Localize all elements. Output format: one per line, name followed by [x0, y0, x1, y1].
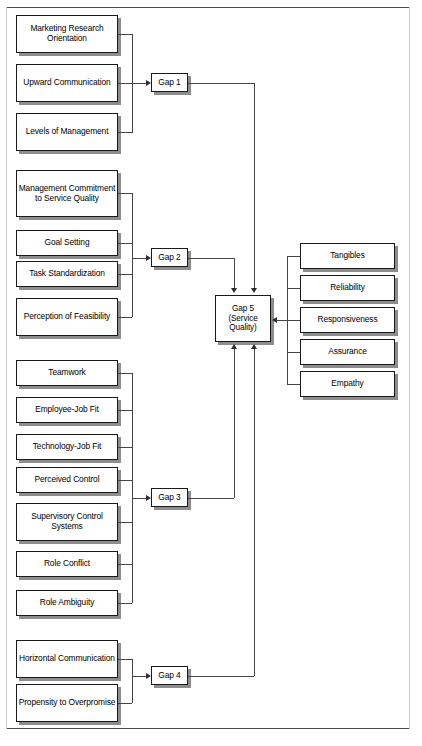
antecedent-box-supervisory-control-systems: Supervisory Control Systems	[16, 503, 118, 541]
connector-dimension-stub-1	[287, 256, 300, 257]
gap5-label-line1: Gap 5	[232, 304, 254, 314]
dimension-box-assurance: Assurance	[300, 339, 395, 365]
connector-gap1-out-v	[254, 83, 255, 288]
connector-gap2-stub-1	[118, 193, 132, 194]
dimension-label: Responsiveness	[317, 315, 377, 325]
connector-dimension-stub-3	[287, 320, 300, 321]
antecedent-box-marketing-research-orientation: Marketing Research Orientation	[16, 15, 118, 53]
antecedent-label: Teamwork	[48, 368, 85, 378]
antecedent-box-role-conflict: Role Conflict	[16, 551, 118, 577]
connector-gap3-stub-7	[118, 603, 132, 604]
connector-gap2-bus	[132, 193, 133, 317]
antecedent-box-perceived-control: Perceived Control	[16, 467, 118, 493]
gap-label: Gap 4	[158, 671, 180, 681]
antecedent-box-propensity-to-overpromise: Propensity to Overpromise	[16, 684, 118, 722]
dimension-box-reliability: Reliability	[300, 275, 395, 301]
connector-dimension-stub-4	[287, 352, 300, 353]
antecedent-label: Perception of Feasibility	[24, 312, 110, 322]
connector-gap3-stub-5	[118, 522, 132, 523]
connector-dimension-stub-2	[287, 288, 300, 289]
page-rule-bottom	[6, 728, 410, 729]
gap5-label-line3: Quality)	[229, 323, 256, 333]
connector-gap4-bus	[132, 659, 133, 703]
dimension-box-empathy: Empathy	[300, 371, 395, 397]
connector-gap2-stub-3	[118, 274, 132, 275]
page-rule-right	[409, 7, 410, 729]
connector-gap2-stub-4	[118, 317, 132, 318]
antecedent-box-levels-of-management: Levels of Management	[16, 113, 118, 151]
connector-dimension-bus	[287, 256, 288, 384]
page-rule-top	[6, 7, 410, 8]
gap-box-2: Gap 2	[151, 248, 188, 267]
antecedent-label: Supervisory Control Systems	[17, 512, 117, 532]
connector-gap2-stub-2	[118, 243, 132, 244]
antecedent-box-management-commitment: Management Commitment to Service Quality	[16, 170, 118, 217]
connector-gap4-out-h	[188, 676, 254, 677]
connector-gap3-stub-4	[118, 480, 132, 481]
connector-gap1-stub-1	[118, 34, 132, 35]
connector-gap3-stub-6	[118, 564, 132, 565]
gap-box-5-service-quality: Gap 5 (Service Quality)	[215, 295, 271, 342]
connector-gap3-to-gapbox	[132, 498, 146, 499]
connector-gap3-out-v	[234, 349, 235, 498]
gap-label: Gap 3	[158, 493, 180, 503]
arrow-gap4-into-gap5	[251, 344, 257, 349]
connector-gap3-stub-3	[118, 447, 132, 448]
connector-gap3-stub-2	[118, 410, 132, 411]
antecedent-box-upward-communication: Upward Communication	[16, 64, 118, 102]
connector-gap3-out-h	[188, 498, 234, 499]
connector-gap1-stub-3	[118, 132, 132, 133]
antecedent-label: Role Ambiguity	[40, 598, 94, 608]
antecedent-box-technology-job-fit: Technology-Job Fit	[16, 434, 118, 460]
antecedent-label: Marketing Research Orientation	[17, 24, 117, 44]
connector-dimensions-to-gap5	[277, 320, 287, 321]
arrow-gap1-into-gap5	[251, 288, 257, 293]
connector-gap2-to-gapbox	[132, 258, 146, 259]
arrow-dimensions-into-gap5	[272, 317, 277, 323]
antecedent-label: Technology-Job Fit	[33, 442, 102, 452]
antecedent-label: Task Standardization	[29, 269, 105, 279]
antecedent-label: Perceived Control	[35, 475, 100, 485]
dimension-box-tangibles: Tangibles	[300, 243, 395, 269]
antecedent-box-task-standardization: Task Standardization	[16, 261, 118, 287]
dimension-label: Tangibles	[330, 251, 364, 261]
connector-dimension-stub-5	[287, 384, 300, 385]
arrow-gap3-into-gap5	[231, 344, 237, 349]
antecedent-label: Management Commitment to Service Quality	[17, 184, 117, 204]
connector-gap4-stub-1	[118, 659, 132, 660]
connector-gap4-to-gapbox	[132, 676, 146, 677]
antecedent-box-employee-job-fit: Employee-Job Fit	[16, 397, 118, 423]
dimension-box-responsiveness: Responsiveness	[300, 307, 395, 333]
arrow-gap2-into-gap5	[231, 288, 237, 293]
connector-gap4-out-v	[254, 349, 255, 676]
connector-gap3-bus	[132, 373, 133, 603]
connector-gap2-out-h	[188, 258, 234, 259]
gap-box-3: Gap 3	[151, 488, 188, 507]
antecedent-box-horizontal-communication: Horizontal Communication	[16, 640, 118, 678]
antecedent-box-teamwork: Teamwork	[16, 360, 118, 386]
connector-gap4-stub-2	[118, 703, 132, 704]
connector-gap1-stub-2	[118, 83, 132, 84]
connector-gap3-stub-1	[118, 373, 132, 374]
page-rule-left	[6, 7, 7, 729]
connector-gap2-out-v	[234, 258, 235, 288]
servqual-gaps-diagram: Marketing Research Orientation Upward Co…	[0, 0, 422, 746]
antecedent-box-perception-of-feasibility: Perception of Feasibility	[16, 298, 118, 336]
antecedent-label: Role Conflict	[44, 559, 90, 569]
antecedent-label: Goal Setting	[45, 238, 90, 248]
antecedent-label: Upward Communication	[23, 78, 110, 88]
gap-box-4: Gap 4	[151, 666, 188, 685]
dimension-label: Empathy	[331, 379, 363, 389]
gap-box-1: Gap 1	[151, 73, 188, 92]
antecedent-box-role-ambiguity: Role Ambiguity	[16, 590, 118, 616]
gap-label: Gap 1	[158, 78, 180, 88]
connector-gap1-to-gapbox	[132, 83, 146, 84]
connector-gap1-out-h	[188, 83, 254, 84]
antecedent-label: Propensity to Overpromise	[19, 698, 116, 708]
gap5-label-line2: (Service	[228, 314, 257, 324]
antecedent-label: Employee-Job Fit	[35, 405, 99, 415]
antecedent-label: Horizontal Communication	[19, 654, 115, 664]
dimension-label: Assurance	[328, 347, 367, 357]
antecedent-label: Levels of Management	[26, 127, 109, 137]
gap-label: Gap 2	[158, 253, 180, 263]
